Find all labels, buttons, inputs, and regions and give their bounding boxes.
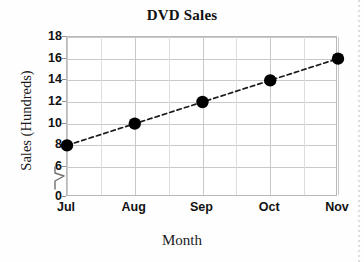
data-point-markers: [61, 52, 344, 151]
y-tick-mark-0: [62, 196, 66, 197]
y-tick-label-8: 8: [38, 138, 62, 151]
y-tick-label-12: 12: [38, 95, 62, 108]
y-tick-label-14: 14: [38, 73, 62, 86]
data-point-jul: [61, 139, 73, 151]
y-tick-label-10: 10: [38, 117, 62, 130]
data-series-layer: [67, 37, 338, 197]
x-tick-label-sep: Sep: [172, 200, 232, 214]
x-tick-label-nov: Nov: [307, 200, 364, 214]
y-axis-tick-labels: 1816141210860: [34, 0, 62, 262]
plot-area: [66, 36, 337, 196]
data-point-aug: [129, 117, 141, 129]
data-point-sep: [196, 96, 208, 108]
x-tick-label-aug: Aug: [104, 200, 164, 214]
y-tick-label-18: 18: [38, 30, 62, 43]
chart-figure: DVD Sales Sales (Hundreds) Month 1816141…: [0, 0, 364, 262]
data-point-oct: [264, 74, 276, 86]
page-edge-artifact: [358, 0, 360, 262]
y-tick-label-16: 16: [38, 52, 62, 65]
y-axis-title: Sales (Hundreds): [18, 41, 35, 201]
x-tick-label-jul: Jul: [36, 200, 96, 214]
data-point-nov: [332, 52, 344, 64]
x-tick-label-oct: Oct: [239, 200, 299, 214]
